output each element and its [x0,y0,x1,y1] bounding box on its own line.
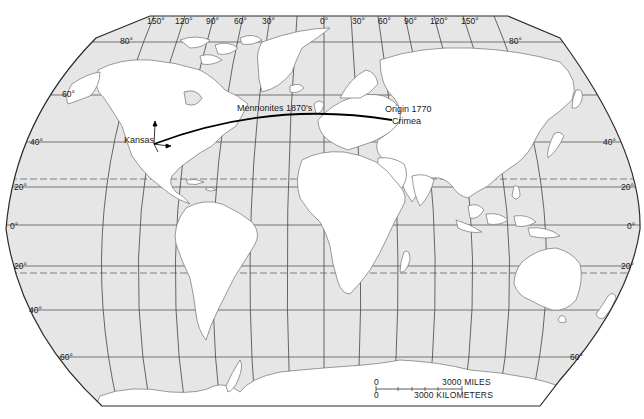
lat-label-80n-left: 80° [120,37,133,46]
lat-label-60n-left: 60° [62,90,75,99]
lat-label-20n-left: 20° [14,183,27,192]
lat-label-60s-right: 60° [570,353,583,362]
lon-label-120w: 120° [175,17,193,26]
lat-label-60s-left: 60° [60,353,73,362]
origin-label: Origin 1770 [385,105,432,114]
lon-label-0: 0° [320,17,328,26]
lat-label-40s-left: 40° [29,306,42,315]
lat-label-20s-right: 20° [621,262,634,271]
scale-km-label: 3000 KILOMETERS [414,391,493,400]
lat-label-20n-right: 20° [621,183,634,192]
lat-label-0-left: 0° [10,222,18,231]
lon-label-120e: 120° [430,17,448,26]
lat-label-40n-right: 40° [603,138,616,147]
lon-label-60e: 60° [378,17,391,26]
world-map [0,0,644,419]
lon-label-30w: 30° [262,17,275,26]
lon-label-90w: 90° [206,17,219,26]
lat-label-20s-left: 20° [14,262,27,271]
route-label: Mennonites 1870's [237,104,312,113]
lon-label-150e: 150° [461,17,479,26]
lon-label-90e: 90° [404,17,417,26]
scale-miles-label: 3000 MILES [442,378,491,387]
destination-label: Kansas [124,136,154,145]
origin-place-label: Crimea [392,117,421,126]
lat-label-80n-right: 80° [509,37,522,46]
lon-label-60w: 60° [234,17,247,26]
scale-km-zero: 0 [374,391,379,400]
lat-label-0-right: 0° [627,222,635,231]
lon-label-150w: 150° [147,17,165,26]
scale-miles-zero: 0 [374,378,379,387]
lon-label-30e: 30° [352,17,365,26]
lat-label-40n-left: 40° [30,138,43,147]
